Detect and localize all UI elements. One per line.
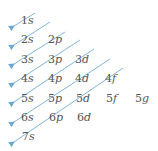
orbital-4p: 4p <box>48 73 62 84</box>
orbital-5p: 5p <box>48 93 62 104</box>
orbital-3p: 3p <box>48 54 62 65</box>
orbital-6p: 6p <box>49 112 63 123</box>
orbital-4f: 4f <box>105 73 116 84</box>
orbital-5d: 5d <box>76 93 90 104</box>
orbital-4d: 4d <box>75 73 89 84</box>
orbital-5s: 5s <box>21 93 34 104</box>
orbital-2s: 2s <box>21 34 34 45</box>
orbital-6s: 6s <box>21 112 34 123</box>
orbital-5g: 5g <box>135 93 149 104</box>
orbital-5f: 5f <box>106 93 117 104</box>
orbital-1s: 1s <box>21 15 34 26</box>
orbital-3s: 3s <box>21 54 34 65</box>
orbital-6d: 6d <box>77 112 91 123</box>
orbital-3d: 3d <box>75 54 89 65</box>
orbital-2p: 2p <box>48 34 62 45</box>
orbital-7s: 7s <box>22 131 35 142</box>
orbital-4s: 4s <box>21 73 34 84</box>
aufbau-diagram: 1s 2s 2p 3s 3p 3d 4s 4p 4d 4f 5s 5p 5d 5… <box>0 0 158 151</box>
